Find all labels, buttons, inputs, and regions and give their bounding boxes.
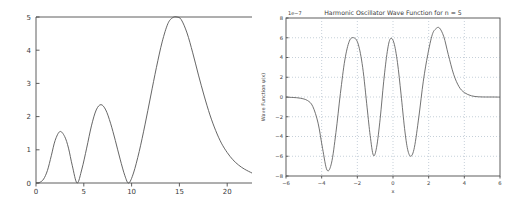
- left-y-ticklabels: 0 1 2 3 4 5: [27, 14, 32, 188]
- right-chart-svg: −8 −6 −4 −2 0 2 4 6 8 −6: [254, 0, 508, 200]
- left-chart-data-line: [36, 17, 252, 183]
- left-chart-svg: 0 1 2 3 4 5 0 5 10 15 20: [0, 0, 254, 200]
- right-y-ticklabel: −6: [275, 153, 283, 159]
- right-x-ticklabel: 6: [498, 180, 501, 186]
- left-x-ticklabels: 0 5 10 15 20: [34, 188, 232, 196]
- right-x-ticklabels: −6 −4 −2 0 2 4 6: [282, 180, 501, 186]
- left-y-ticklabel: 4: [27, 47, 32, 55]
- left-y-ticklabel: 1: [27, 146, 31, 154]
- right-y-ticklabel: 0: [280, 94, 283, 100]
- left-x-ticklabel: 20: [223, 188, 232, 196]
- right-chart-title: Harmonic Oscillator Wave Function for n …: [324, 9, 462, 16]
- right-y-ticklabel: −8: [275, 173, 283, 179]
- left-x-ticklabel: 0: [34, 188, 38, 196]
- right-y-ticklabel: −2: [275, 114, 283, 120]
- left-y-ticklabel: 0: [27, 180, 31, 188]
- left-y-ticks: [36, 17, 40, 183]
- right-x-ticklabel: 0: [391, 180, 394, 186]
- left-x-ticklabel: 10: [127, 188, 136, 196]
- right-y-ticklabel: 2: [280, 74, 283, 80]
- right-x-ticklabel: 2: [427, 180, 430, 186]
- right-y-ticklabel: 8: [280, 15, 283, 21]
- left-y-ticklabel: 2: [27, 113, 31, 121]
- right-y-ticklabel: 4: [280, 54, 284, 60]
- right-x-ticklabel: 4: [463, 180, 467, 186]
- right-y-ticklabel: 6: [280, 35, 283, 41]
- right-y-offset-text: 1e−7: [288, 10, 302, 16]
- left-x-ticklabel: 15: [175, 188, 184, 196]
- left-x-ticks: [36, 183, 227, 187]
- left-chart-panel: 0 1 2 3 4 5 0 5 10 15 20: [0, 0, 254, 200]
- right-y-axis-label: Wave Function ψ(x): [260, 73, 267, 121]
- right-y-ticklabel: −4: [275, 133, 283, 139]
- figure-container: 0 1 2 3 4 5 0 5 10 15 20: [0, 0, 508, 200]
- right-x-axis-label: x: [392, 188, 395, 194]
- left-y-ticklabel: 3: [27, 80, 31, 88]
- left-chart-axes: [36, 17, 252, 183]
- right-chart-panel: −8 −6 −4 −2 0 2 4 6 8 −6: [254, 0, 508, 200]
- left-y-ticklabel: 5: [27, 14, 31, 22]
- right-x-ticklabel: −6: [282, 180, 290, 186]
- right-chart-gridlines: [286, 18, 500, 176]
- right-y-ticklabels: −8 −6 −4 −2 0 2 4 6 8: [275, 15, 283, 179]
- right-x-ticklabel: −4: [318, 180, 326, 186]
- right-x-ticklabel: −2: [354, 180, 362, 186]
- left-x-ticklabel: 5: [82, 188, 86, 196]
